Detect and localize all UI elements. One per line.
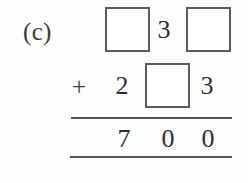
digit-hundreds-sum: 7: [114, 126, 134, 152]
digit-hundreds-addend2: 2: [112, 73, 132, 99]
blank-box-ones-addend1[interactable]: [186, 7, 231, 52]
digit-tens-sum: 0: [158, 126, 178, 152]
blank-box-tens-addend2[interactable]: [145, 63, 190, 108]
digit-ones-sum: 0: [198, 126, 218, 152]
worksheet-problem-canvas: (c) 3 + 2 3 7 0 0: [0, 0, 248, 183]
digit-ones-addend2: 3: [197, 73, 217, 99]
digit-tens-addend1: 3: [154, 17, 174, 43]
blank-box-hundreds-addend1[interactable]: [105, 7, 150, 52]
sum-rule-top: [71, 117, 232, 119]
part-label: (c): [23, 17, 52, 47]
sum-rule-bottom: [70, 156, 232, 158]
plus-operator: +: [69, 74, 89, 99]
